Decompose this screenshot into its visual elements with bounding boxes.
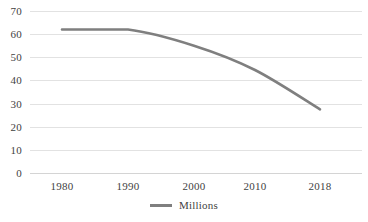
gridline-60 (30, 34, 362, 35)
chart-legend: Millions (0, 200, 368, 211)
y-tick-label-40: 40 (0, 75, 22, 86)
y-tick-label-30: 30 (0, 99, 22, 110)
gridline-50 (30, 57, 362, 58)
plot-area: 70 60 50 40 30 20 10 0 1980 1990 2000 20… (0, 0, 368, 222)
x-tick-label-1980: 1980 (39, 181, 85, 192)
y-tick-label-0: 0 (0, 168, 22, 179)
x-tick-label-2000: 2000 (171, 181, 217, 192)
series-line-millions (62, 30, 320, 110)
y-tick-label-20: 20 (0, 122, 22, 133)
y-tick-label-50: 50 (0, 52, 22, 63)
y-tick-label-10: 10 (0, 145, 22, 156)
y-tick-label-70: 70 (0, 6, 22, 17)
gridline-20 (30, 127, 362, 128)
x-tick-label-2018: 2018 (297, 181, 343, 192)
y-tick-label-60: 60 (0, 29, 22, 40)
x-tick-label-2010: 2010 (232, 181, 278, 192)
legend-label-millions: Millions (179, 200, 218, 211)
line-chart: 70 60 50 40 30 20 10 0 1980 1990 2000 20… (0, 0, 368, 222)
x-tick-label-1990: 1990 (105, 181, 151, 192)
legend-swatch-millions (150, 204, 172, 207)
gridline-70 (30, 11, 362, 12)
gridline-40 (30, 80, 362, 81)
gridline-0 (30, 173, 362, 174)
gridline-10 (30, 150, 362, 151)
gridline-30 (30, 104, 362, 105)
